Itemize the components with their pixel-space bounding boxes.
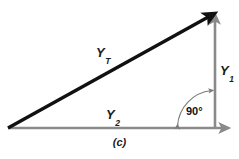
label-y2-subscript: 2 [115,118,120,128]
label-resultant-base: Y [96,45,105,60]
label-resultant-yt: YT [96,44,110,63]
vector-diagram-figure: YT Y1 Y2 90° (c) [0,0,239,159]
label-y1-subscript: 1 [229,74,234,84]
label-horizontal-component-y2: Y2 [106,106,119,125]
label-resultant-subscript: T [105,56,110,66]
label-y1-base: Y [220,63,229,78]
label-y2-base: Y [106,107,115,122]
label-vertical-component-y1: Y1 [220,62,233,81]
label-angle-90: 90° [186,106,203,117]
figure-caption: (c) [0,136,239,148]
